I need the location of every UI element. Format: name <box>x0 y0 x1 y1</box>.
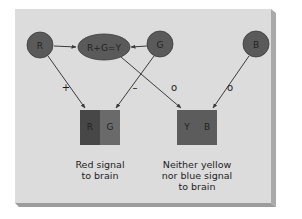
sign-minus: – <box>133 82 138 93</box>
caption-box1: Red signal to brain <box>60 159 140 181</box>
panel-edge-bottom <box>15 203 276 207</box>
node-g-label: G <box>157 40 164 50</box>
node-r-label: R <box>37 41 43 51</box>
box2-right-label: B <box>204 122 210 132</box>
caption-box1-line2: to brain <box>60 170 140 181</box>
box1-left-label: R <box>87 122 93 132</box>
box-yellow-blue: Y B <box>177 110 217 145</box>
node-g: G <box>147 31 173 57</box>
sign-plus: + <box>62 82 70 93</box>
box1-right-label: G <box>107 122 114 132</box>
box2-left-label: Y <box>183 122 190 132</box>
sign-zero-b: o <box>227 82 233 93</box>
caption-box2-line3: to brain <box>152 181 242 192</box>
box-red-green: R G <box>80 110 120 145</box>
node-r: R <box>27 32 53 58</box>
caption-box2-line1: Neither yellow <box>152 159 242 170</box>
opponent-process-diagram: R R+G=Y G B + – o o R G Y B <box>0 0 302 219</box>
node-combo: R+G=Y <box>78 34 130 60</box>
caption-box2-line2: nor blue signal <box>152 170 242 181</box>
panel-edge-right <box>271 9 276 207</box>
sign-zero-combo: o <box>171 82 177 93</box>
node-b: B <box>243 31 269 57</box>
node-b-label: B <box>253 40 259 50</box>
caption-box2: Neither yellow nor blue signal to brain <box>152 159 242 192</box>
caption-box1-line1: Red signal <box>60 159 140 170</box>
node-combo-label: R+G=Y <box>87 43 121 53</box>
